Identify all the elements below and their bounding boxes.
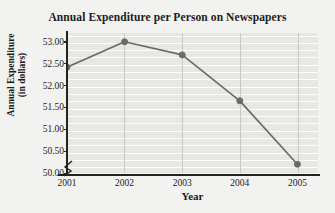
- x-axis-tick-label: 2005: [274, 178, 320, 188]
- x-axis-tick-label: 2002: [102, 178, 148, 188]
- x-axis-tick-label: 2001: [44, 178, 90, 188]
- y-axis-tick-mark: [64, 85, 68, 86]
- data-point-marker: [179, 52, 185, 58]
- series-polyline: [67, 42, 297, 165]
- axis-break-icon: [61, 160, 75, 177]
- y-axis-tick-label: 51.50: [4, 102, 64, 112]
- y-axis-tick-mark: [64, 129, 68, 130]
- y-axis-line: [66, 31, 68, 175]
- data-point-marker: [294, 161, 300, 167]
- y-axis-tick-mark: [64, 41, 68, 42]
- chart-figure: Annual Expenditure per Person on Newspap…: [0, 0, 335, 213]
- x-axis-line: [58, 174, 320, 176]
- x-axis-title: Year: [67, 190, 318, 202]
- y-axis-tick-label: 50.00: [4, 168, 64, 178]
- y-axis-tick-label: 53.00: [4, 37, 64, 47]
- y-axis-tick-label: 52.50: [4, 59, 64, 69]
- data-point-marker: [122, 39, 128, 45]
- y-axis-tick-label: 50.50: [4, 146, 64, 156]
- y-axis-tick-mark: [64, 63, 68, 64]
- x-axis-tick-label: 2004: [217, 178, 263, 188]
- y-axis-tick-label: 52.00: [4, 81, 64, 91]
- data-series-line: [67, 33, 318, 173]
- plot-area: [67, 33, 318, 173]
- data-point-marker: [237, 98, 243, 104]
- y-axis-tick-mark: [64, 151, 68, 152]
- y-axis-tick-mark: [64, 107, 68, 108]
- x-axis-tick-label: 2003: [159, 178, 205, 188]
- y-axis-tick-label: 51.00: [4, 124, 64, 134]
